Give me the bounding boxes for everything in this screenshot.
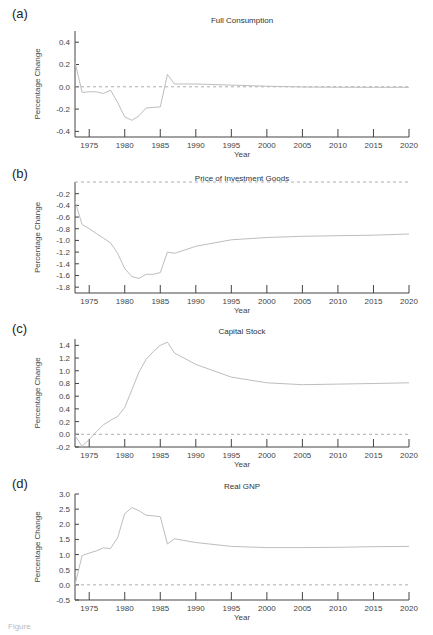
x-tick-label: 2005 — [294, 297, 312, 306]
x-tick-label: 1985 — [151, 141, 169, 150]
x-tick-label: 1985 — [151, 297, 169, 306]
y-tick-label: 0.4 — [59, 405, 71, 414]
x-tick-label: 1980 — [116, 141, 134, 150]
y-tick-label: 0.8 — [59, 379, 71, 388]
y-tick-label: 1.4 — [59, 341, 71, 350]
x-tick-label: 1995 — [222, 604, 240, 613]
y-tick-label: 0.4 — [59, 38, 71, 47]
x-tick-label: 1985 — [151, 451, 169, 460]
x-axis-label: Year — [234, 460, 251, 469]
y-tick-label: 0.2 — [59, 60, 71, 69]
panel-price-investment-goods: (b) Price of Investment Goods -0.2-0.4-0… — [0, 160, 433, 315]
y-axis-label: Percentage Change — [33, 357, 42, 429]
chart-plot: 3.02.52.01.51.00.50.0-0.5197519801985199… — [0, 470, 433, 620]
y-tick-label: 0.5 — [59, 566, 71, 575]
x-axis-label: Year — [234, 150, 251, 159]
x-tick-label: 2005 — [294, 604, 312, 613]
x-tick-label: 2010 — [329, 297, 347, 306]
x-tick-label: 1985 — [151, 604, 169, 613]
y-tick-label: 1.0 — [59, 551, 71, 560]
panel-real-gnp: (d) Real GNP 3.02.52.01.51.00.50.0-0.519… — [0, 470, 433, 620]
data-series-line — [75, 62, 409, 120]
y-tick-label: 0.6 — [59, 392, 71, 401]
x-axis-label: Year — [234, 306, 251, 315]
x-tick-label: 1995 — [222, 297, 240, 306]
data-series-line — [75, 201, 409, 278]
y-tick-label: -0.4 — [56, 127, 70, 136]
y-tick-label: -0.2 — [56, 443, 70, 452]
y-tick-label: -1.2 — [56, 248, 70, 257]
x-tick-label: 1980 — [116, 451, 134, 460]
y-axis-label: Percentage Change — [33, 201, 42, 273]
y-tick-label: 0.2 — [59, 418, 71, 427]
y-tick-label: -1.4 — [56, 260, 70, 269]
x-tick-label: 2010 — [329, 141, 347, 150]
x-tick-label: 1975 — [80, 604, 98, 613]
x-tick-label: 1975 — [80, 451, 98, 460]
x-tick-label: 2015 — [365, 451, 383, 460]
x-tick-label: 1980 — [116, 604, 134, 613]
x-tick-label: 2015 — [365, 141, 383, 150]
x-tick-label: 1995 — [222, 451, 240, 460]
x-tick-label: 1990 — [187, 141, 205, 150]
x-tick-label: 2020 — [400, 297, 418, 306]
y-tick-label: 2.0 — [59, 520, 71, 529]
y-tick-label: -1.8 — [56, 283, 70, 292]
y-tick-label: 1.2 — [59, 354, 71, 363]
x-tick-label: 1990 — [187, 297, 205, 306]
y-tick-label: 0.0 — [59, 581, 71, 590]
y-tick-label: -0.5 — [56, 596, 70, 605]
y-tick-label: -1.6 — [56, 271, 70, 280]
x-tick-label: 2010 — [329, 604, 347, 613]
x-tick-label: 1995 — [222, 141, 240, 150]
x-axis-label: Year — [234, 613, 251, 622]
y-tick-label: -0.4 — [56, 201, 70, 210]
x-tick-label: 2000 — [258, 297, 276, 306]
x-tick-label: 2020 — [400, 451, 418, 460]
y-tick-label: -1.0 — [56, 236, 70, 245]
y-tick-label: 3.0 — [59, 490, 71, 499]
figure-caption-fragment: Figure — [8, 622, 31, 631]
y-tick-label: -0.2 — [56, 190, 70, 199]
data-series-line — [75, 342, 409, 446]
chart-plot: 1.41.21.00.80.60.40.20.0-0.2197519801985… — [0, 315, 433, 470]
y-tick-label: -0.2 — [56, 105, 70, 114]
x-tick-label: 2015 — [365, 297, 383, 306]
y-tick-label: 1.5 — [59, 535, 71, 544]
x-tick-label: 1990 — [187, 604, 205, 613]
x-tick-label: 2000 — [258, 604, 276, 613]
x-tick-label: 2010 — [329, 451, 347, 460]
x-tick-label: 2005 — [294, 451, 312, 460]
y-axis-label: Percentage Change — [33, 48, 42, 120]
x-tick-label: 2000 — [258, 451, 276, 460]
x-tick-label: 2015 — [365, 604, 383, 613]
x-tick-label: 1975 — [80, 297, 98, 306]
x-tick-label: 1975 — [80, 141, 98, 150]
y-tick-label: 2.5 — [59, 505, 71, 514]
x-tick-label: 2020 — [400, 604, 418, 613]
y-tick-label: -0.6 — [56, 213, 70, 222]
x-tick-label: 1980 — [116, 297, 134, 306]
chart-plot: -0.2-0.4-0.6-0.8-1.0-1.2-1.4-1.6-1.81975… — [0, 160, 433, 315]
data-series-line — [75, 508, 409, 585]
y-tick-label: 1.0 — [59, 367, 71, 376]
x-tick-label: 1990 — [187, 451, 205, 460]
y-tick-label: 0.0 — [59, 83, 71, 92]
x-tick-label: 2000 — [258, 141, 276, 150]
y-tick-label: -0.8 — [56, 225, 70, 234]
chart-plot: 0.40.20.0-0.2-0.419751980198519901995200… — [0, 0, 433, 160]
x-tick-label: 2020 — [400, 141, 418, 150]
y-axis-label: Percentage Change — [33, 511, 42, 583]
x-tick-label: 2005 — [294, 141, 312, 150]
panel-full-consumption: (a) Full Consumption 0.40.20.0-0.2-0.419… — [0, 0, 433, 160]
y-tick-label: 0.0 — [59, 430, 71, 439]
panel-capital-stock: (c) Capital Stock 1.41.21.00.80.60.40.20… — [0, 315, 433, 470]
